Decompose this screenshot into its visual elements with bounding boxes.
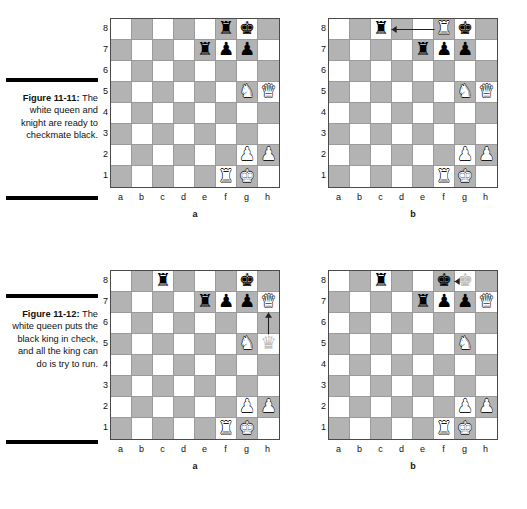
square-f7[interactable]: ♟ (216, 292, 237, 313)
white-pawn-icon[interactable]: ♟ (478, 145, 494, 163)
square-d7[interactable] (392, 40, 413, 61)
square-d2[interactable] (174, 145, 195, 166)
square-h7[interactable] (476, 40, 497, 61)
square-b4[interactable] (132, 355, 153, 376)
square-c8[interactable]: ♜ (371, 19, 392, 40)
square-h5[interactable]: ♛ (258, 82, 279, 103)
square-a5[interactable] (111, 82, 132, 103)
black-rook-icon[interactable]: ♜ (218, 19, 234, 37)
square-d6[interactable] (392, 61, 413, 82)
square-h2[interactable]: ♟ (476, 397, 497, 418)
square-e8[interactable] (413, 19, 434, 40)
square-c6[interactable] (153, 61, 174, 82)
square-g6[interactable] (237, 61, 258, 82)
square-e5[interactable] (195, 82, 216, 103)
square-a7[interactable] (111, 292, 132, 313)
white-pawn-icon[interactable]: ♟ (239, 145, 255, 163)
square-f8[interactable] (216, 271, 237, 292)
black-pawn-icon[interactable]: ♟ (457, 292, 473, 310)
black-pawn-icon[interactable]: ♟ (239, 292, 255, 310)
square-c4[interactable] (153, 103, 174, 124)
white-knight-icon[interactable]: ♞ (457, 82, 473, 100)
square-e8[interactable] (195, 19, 216, 40)
square-e7[interactable]: ♜ (413, 40, 434, 61)
square-h4[interactable] (476, 355, 497, 376)
square-b8[interactable] (132, 19, 153, 40)
square-f8[interactable]: ♜ (216, 19, 237, 40)
square-c7[interactable] (153, 40, 174, 61)
square-f3[interactable] (434, 376, 455, 397)
square-c2[interactable] (371, 397, 392, 418)
square-a8[interactable] (111, 19, 132, 40)
square-g4[interactable] (237, 103, 258, 124)
board-grid[interactable]: ♜♚♚♜♟♟♛♞♟♟♜♚ (328, 270, 498, 440)
square-a7[interactable] (329, 40, 350, 61)
white-knight-icon[interactable]: ♞ (239, 334, 255, 352)
square-b2[interactable] (350, 397, 371, 418)
black-king-icon[interactable]: ♚ (436, 271, 452, 289)
square-c6[interactable] (371, 61, 392, 82)
square-h3[interactable] (476, 124, 497, 145)
white-knight-icon[interactable]: ♞ (457, 334, 473, 352)
square-c3[interactable] (371, 124, 392, 145)
square-d2[interactable] (392, 145, 413, 166)
square-f6[interactable] (434, 61, 455, 82)
square-e7[interactable]: ♜ (195, 40, 216, 61)
square-c7[interactable] (153, 292, 174, 313)
square-e4[interactable] (195, 355, 216, 376)
white-queen-icon[interactable]: ♛ (478, 292, 494, 310)
black-rook-icon[interactable]: ♜ (373, 19, 389, 37)
square-g5[interactable]: ♞ (455, 82, 476, 103)
square-a4[interactable] (111, 355, 132, 376)
white-king-icon[interactable]: ♚ (239, 419, 255, 437)
square-h5[interactable] (476, 334, 497, 355)
square-c3[interactable] (371, 376, 392, 397)
square-a1[interactable] (111, 166, 132, 187)
square-a6[interactable] (111, 313, 132, 334)
square-c8[interactable]: ♜ (153, 271, 174, 292)
black-rook-icon[interactable]: ♜ (415, 40, 431, 58)
square-b7[interactable] (350, 40, 371, 61)
black-pawn-icon[interactable]: ♟ (457, 40, 473, 58)
square-c8[interactable]: ♜ (371, 271, 392, 292)
square-f5[interactable] (434, 334, 455, 355)
square-e3[interactable] (413, 376, 434, 397)
square-d7[interactable] (174, 40, 195, 61)
square-g4[interactable] (237, 355, 258, 376)
square-d5[interactable] (174, 334, 195, 355)
square-h5[interactable]: ♛ (476, 82, 497, 103)
square-f1[interactable]: ♜ (216, 166, 237, 187)
white-queen-icon[interactable]: ♛ (260, 292, 276, 310)
white-knight-icon[interactable]: ♞ (239, 82, 255, 100)
square-c2[interactable] (371, 145, 392, 166)
white-rook-icon[interactable]: ♜ (436, 19, 452, 37)
square-b7[interactable] (132, 292, 153, 313)
square-a4[interactable] (329, 103, 350, 124)
square-f7[interactable]: ♟ (216, 40, 237, 61)
square-a5[interactable] (111, 334, 132, 355)
square-e5[interactable] (413, 334, 434, 355)
square-g5[interactable]: ♞ (455, 334, 476, 355)
square-c1[interactable] (371, 166, 392, 187)
square-c1[interactable] (153, 166, 174, 187)
square-d5[interactable] (392, 82, 413, 103)
black-pawn-icon[interactable]: ♟ (239, 40, 255, 58)
square-a3[interactable] (111, 376, 132, 397)
white-pawn-icon[interactable]: ♟ (478, 397, 494, 415)
square-e8[interactable] (195, 271, 216, 292)
square-b5[interactable] (132, 334, 153, 355)
square-a1[interactable] (329, 418, 350, 439)
square-b6[interactable] (350, 61, 371, 82)
square-e6[interactable] (413, 313, 434, 334)
white-king-icon[interactable]: ♚ (457, 419, 473, 437)
square-e3[interactable] (195, 124, 216, 145)
square-d8[interactable] (174, 271, 195, 292)
square-c5[interactable] (153, 82, 174, 103)
square-f1[interactable]: ♜ (434, 166, 455, 187)
square-d1[interactable] (392, 418, 413, 439)
square-h8[interactable] (476, 271, 497, 292)
square-a7[interactable] (329, 292, 350, 313)
black-pawn-icon[interactable]: ♟ (436, 40, 452, 58)
square-a7[interactable] (111, 40, 132, 61)
chessboard-11-11-b[interactable]: 87654321♜♜♚♜♟♟♞♛♟♟♜♚abcdefghb (328, 18, 498, 219)
